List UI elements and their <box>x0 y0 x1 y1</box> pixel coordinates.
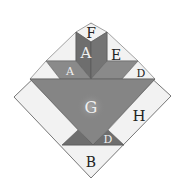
label-d-right: D <box>137 67 146 80</box>
label-h: H <box>132 107 145 125</box>
label-b: B <box>86 154 96 170</box>
label-g: G <box>85 98 98 117</box>
label-a-left: A <box>65 65 75 78</box>
label-a-top: A <box>80 44 92 62</box>
label-e: E <box>111 47 121 63</box>
piece-e-left <box>46 32 76 61</box>
label-d-bottom: D <box>104 133 113 146</box>
label-f: F <box>86 25 96 41</box>
quilt-block-diagram: F A A E D G H D B <box>0 0 181 187</box>
